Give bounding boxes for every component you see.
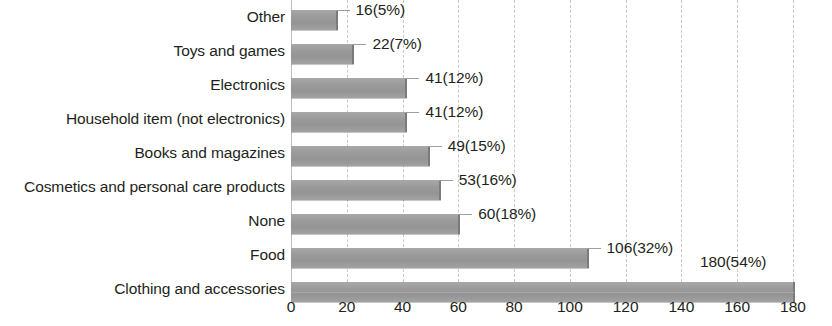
bar[interactable]: [291, 78, 407, 98]
bar-row: Other 16(5%): [0, 0, 832, 34]
category-label: Other: [247, 0, 285, 34]
x-tick-label: 20: [317, 298, 377, 316]
leader-line: [439, 180, 453, 181]
category-label: Electronics: [210, 68, 285, 102]
data-label: 16(5%): [356, 0, 405, 20]
bar[interactable]: [291, 44, 354, 64]
bar-container: [291, 44, 352, 64]
leader-line: [458, 214, 472, 215]
bar-container: [291, 10, 336, 30]
bar-row: None 60(18%): [0, 204, 832, 238]
x-tick-label: 80: [484, 298, 544, 316]
category-label: Books and magazines: [134, 136, 285, 170]
data-label: 180(54%): [700, 252, 766, 272]
data-label: 53(16%): [459, 170, 517, 190]
category-label: Clothing and accessories: [114, 272, 285, 306]
x-tick-label: 180: [763, 298, 823, 316]
category-label: Food: [250, 238, 285, 272]
data-label: 41(12%): [425, 68, 483, 88]
bar-row: Electronics 41(12%): [0, 68, 832, 102]
data-label: 60(18%): [478, 204, 536, 224]
leader-line: [352, 44, 366, 45]
bar-container: [291, 248, 587, 268]
bar-row: Books and magazines 49(15%): [0, 136, 832, 170]
x-tick-label: 160: [707, 298, 767, 316]
leader-line: [405, 78, 419, 79]
x-tick-label: 100: [540, 298, 600, 316]
x-tick-label: 120: [596, 298, 656, 316]
category-label: Cosmetics and personal care products: [24, 170, 285, 204]
x-tick-label: 60: [428, 298, 488, 316]
bar[interactable]: [291, 214, 460, 234]
bar[interactable]: [291, 112, 407, 132]
leader-line: [587, 248, 601, 249]
bar-container: [291, 180, 439, 200]
bar[interactable]: [291, 10, 338, 30]
data-label: 22(7%): [372, 34, 421, 54]
data-label: 41(12%): [425, 102, 483, 122]
bar-row: Household item (not electronics) 41(12%): [0, 102, 832, 136]
category-label: Toys and games: [174, 34, 285, 68]
bar-container: [291, 78, 405, 98]
bar-row: Toys and games 22(7%): [0, 34, 832, 68]
category-label: None: [248, 204, 285, 238]
bar[interactable]: [291, 146, 430, 166]
x-tick-label: 140: [651, 298, 711, 316]
data-label: 106(32%): [607, 238, 673, 258]
data-label: 49(15%): [448, 136, 506, 156]
bar-container: [291, 112, 405, 132]
x-axis-line: [291, 292, 794, 293]
bar-container: [291, 214, 458, 234]
x-tick-label: 0: [261, 298, 321, 316]
bar-container: [291, 146, 428, 166]
x-tick-label: 40: [373, 298, 433, 316]
bar[interactable]: [291, 180, 441, 200]
bar-row: Cosmetics and personal care products 53(…: [0, 170, 832, 204]
leader-line: [405, 112, 419, 113]
bar-chart: Other 16(5%) Toys and games 22(7%) Elect…: [0, 0, 832, 326]
leader-line: [336, 10, 350, 11]
bar[interactable]: [291, 248, 589, 268]
leader-line: [428, 146, 442, 147]
category-label: Household item (not electronics): [66, 102, 285, 136]
